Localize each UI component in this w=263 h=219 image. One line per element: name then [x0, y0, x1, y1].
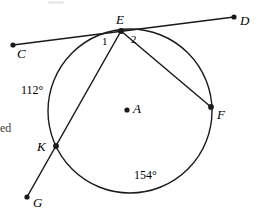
segment-g-e — [27, 31, 121, 197]
point-label-a: A — [133, 102, 141, 115]
point-dot-d — [231, 14, 236, 19]
arc-measure-label-112: 112° — [21, 84, 43, 96]
angle-label-2: 2 — [131, 34, 137, 45]
point-label-g: G — [33, 196, 43, 209]
point-dot-k — [53, 143, 59, 149]
point-dot-f — [208, 104, 214, 110]
arc-measure-label-154: 154° — [134, 169, 157, 181]
point-dot-a — [124, 107, 129, 112]
angle-label-1: 1 — [102, 36, 108, 47]
margin-text-fragment: ed — [0, 122, 11, 134]
point-label-e: E — [116, 13, 124, 26]
point-dot-c — [10, 42, 15, 47]
point-label-f: F — [217, 108, 225, 121]
point-label-k: K — [37, 140, 46, 153]
point-label-c: C — [17, 47, 26, 60]
point-dot-g — [24, 194, 29, 199]
point-label-d: D — [240, 14, 250, 27]
geometry-figure: C D E A F K G 1 2 112° 154° ed — [0, 0, 263, 219]
circle-a — [48, 29, 212, 193]
point-dot-e — [118, 28, 124, 34]
